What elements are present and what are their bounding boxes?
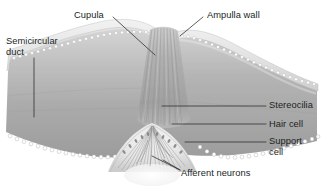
label-afferent-neurons: Afferent neurons xyxy=(181,168,250,179)
label-support-cell: Support cell xyxy=(269,136,302,157)
label-ampulla-wall: Ampulla wall xyxy=(207,10,260,21)
label-semicircular-duct: Semicircular duct xyxy=(6,36,58,57)
label-stereocilia: Stereocilia xyxy=(269,100,313,111)
label-hair-cell: Hair cell xyxy=(269,119,303,130)
ampulla-crista-figure xyxy=(0,0,323,187)
label-cupula: Cupula xyxy=(74,10,104,21)
